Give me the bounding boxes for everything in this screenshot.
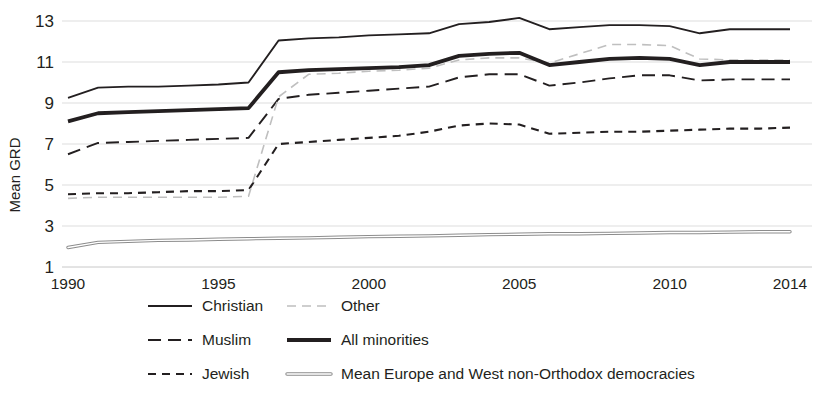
y-tick-label-5: 5 [45,176,54,195]
y-tick-label-11: 11 [36,53,54,72]
chart-legend: ChristianOtherMuslimAll minoritiesJewish… [148,297,695,382]
legend-label: Christian [202,297,263,314]
y-axis-title: Mean GRD [6,137,23,212]
legend-item-christian[interactable]: Christian [148,297,263,314]
series-line-other [68,45,790,199]
legend-item-jewish[interactable]: Jewish [148,365,249,382]
x-tick-label-2005: 2005 [502,275,536,292]
chart-canvas: 135791113 199019952000200520102014 Mean … [0,0,825,399]
legend-label: Muslim [202,331,251,348]
legend-label: Other [341,297,380,314]
legend-label: All minorities [341,331,429,348]
legend-label: Mean Europe and West non-Orthodox democr… [341,365,695,382]
legend-item-all-minorities[interactable]: All minorities [287,331,429,348]
series-line-jewish [68,124,790,195]
gridlines [62,21,812,267]
x-tick-label-2010: 2010 [652,275,687,292]
x-tick-label-1990: 1990 [51,275,86,292]
legend-item-muslim[interactable]: Muslim [148,331,251,348]
y-tick-label-9: 9 [45,94,54,113]
legend-item-other[interactable]: Other [287,297,380,314]
series-lines [68,18,790,248]
x-tick-label-2014: 2014 [773,275,808,292]
y-tick-label-7: 7 [45,135,54,154]
x-axis-tick-labels: 199019952000200520102014 [51,275,808,292]
y-tick-label-3: 3 [45,217,54,236]
y-axis-tick-labels: 135791113 [35,12,54,277]
legend-label: Jewish [202,365,249,382]
x-tick-label-1995: 1995 [201,275,235,292]
legend-item-mean-europe-and-west-non-orthodox-democracies[interactable]: Mean Europe and West non-Orthodox democr… [287,365,695,382]
x-tick-label-2000: 2000 [352,275,387,292]
line-chart: 135791113 199019952000200520102014 Mean … [0,0,825,399]
y-tick-label-13: 13 [35,12,54,31]
